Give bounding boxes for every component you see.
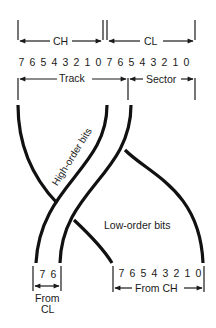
bit: 7 (116, 268, 127, 279)
bit: 3 (148, 57, 159, 68)
bit: 3 (60, 57, 71, 68)
bit: 1 (82, 57, 93, 68)
bit: 5 (126, 57, 137, 68)
from-cl-label-line1: From (34, 293, 61, 304)
ch-label: CH (52, 36, 69, 47)
bit: 4 (149, 268, 160, 279)
bit: 4 (49, 57, 60, 68)
bit: 7 (37, 269, 48, 280)
cl-label: CL (143, 36, 158, 47)
from-cl-label-line2: CL (40, 304, 55, 315)
from-cl-bits: 76 (37, 269, 59, 280)
bit: 5 (138, 268, 149, 279)
bit-mapping-diagram (0, 0, 216, 328)
from-ch-label: From CH (134, 283, 179, 294)
bit: 1 (170, 57, 181, 68)
bit: 2 (171, 268, 182, 279)
bit: 6 (48, 269, 59, 280)
bit: 2 (159, 57, 170, 68)
bit: 5 (38, 57, 49, 68)
low-order-curve (125, 150, 203, 263)
bit: 0 (181, 57, 192, 68)
bit: 7 (16, 57, 27, 68)
bit: 0 (93, 57, 104, 68)
sector-label: Sector (145, 74, 177, 85)
bit: 6 (115, 57, 126, 68)
from-ch-bits: 76543210 (116, 268, 204, 279)
crossing-curve-upper (18, 105, 57, 203)
bit: 7 (104, 57, 115, 68)
low-order-bits-label: Low-order bits (103, 220, 172, 231)
bit: 6 (127, 268, 138, 279)
bit: 0 (193, 268, 204, 279)
bit: 3 (160, 268, 171, 279)
track-label: Track (58, 73, 86, 84)
top-bit-row: 7654321076543210 (16, 57, 192, 68)
bit: 6 (27, 57, 38, 68)
bit: 2 (71, 57, 82, 68)
bit: 1 (182, 268, 193, 279)
bit: 4 (137, 57, 148, 68)
